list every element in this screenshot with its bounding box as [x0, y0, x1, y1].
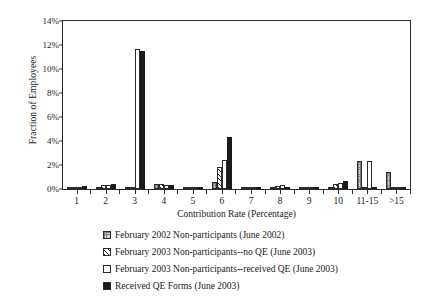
bar-group-7 [237, 21, 266, 189]
legend-label: February 2003 Non-participants--received… [115, 264, 338, 274]
y-tick-label: 6% [19, 112, 63, 122]
x-tick-mark [77, 190, 78, 194]
bar-group-15 [381, 21, 410, 189]
x-tick-mark [338, 190, 339, 194]
bar-groups [63, 21, 410, 189]
x-tick-mark [367, 190, 368, 194]
bar [169, 185, 174, 189]
solid-black-swatch [103, 282, 111, 290]
bar-group-4 [150, 21, 179, 189]
x-tick-label: 7 [236, 196, 265, 206]
x-boundary-tick [410, 190, 411, 194]
x-boundary-tick [235, 190, 236, 194]
bar-group-3 [121, 21, 150, 189]
y-tick-label: 14% [19, 16, 63, 26]
bar [343, 181, 348, 189]
x-tick-label: 9 [295, 196, 324, 206]
x-boundary-tick [206, 190, 207, 194]
x-tick-label: 5 [178, 196, 207, 206]
x-boundary-tick [294, 190, 295, 194]
x-tick-mark [193, 190, 194, 194]
bar [198, 187, 203, 189]
bar [314, 187, 319, 189]
x-tick-label: 6 [207, 196, 236, 206]
bar-group-1 [63, 21, 92, 189]
legend-item: Received QE Forms (June 2003) [103, 277, 433, 294]
legend-label: Received QE Forms (June 2003) [115, 281, 240, 291]
x-tick-mark [396, 190, 397, 194]
legend-item: February 2003 Non-participants--received… [103, 260, 433, 277]
y-tick-label: 4% [19, 136, 63, 146]
x-boundary-tick [148, 190, 149, 194]
x-tick-label: 3 [120, 196, 149, 206]
x-tick-mark [135, 190, 136, 194]
chart-legend: February 2002 Non-participants (June 200… [103, 226, 433, 294]
x-tick-mark [106, 190, 107, 194]
x-boundary-tick [381, 190, 382, 194]
bar [367, 161, 372, 189]
x-tick-label: 1 [62, 196, 91, 206]
x-tick-mark [280, 190, 281, 194]
bar-group-6 [208, 21, 237, 189]
x-boundary-tick [265, 190, 266, 194]
chart-figure: Fraction of Employees 0%2%4%6%8%10%12%14… [0, 0, 435, 306]
x-tick-mark [222, 190, 223, 194]
bar [140, 51, 145, 189]
bar-group-5 [179, 21, 208, 189]
bar-group-2 [92, 21, 121, 189]
x-boundary-tick [119, 190, 120, 194]
bar [111, 184, 116, 189]
y-tick-label: 0% [19, 184, 63, 194]
grid-stipple-swatch [103, 231, 111, 239]
x-tick-label: 4 [149, 196, 178, 206]
y-tick-label: 12% [19, 40, 63, 50]
x-axis-title: Contribution Rate (Percentage) [62, 209, 411, 219]
bar [401, 187, 406, 189]
hollow-white-swatch [103, 265, 111, 273]
legend-item: February 2002 Non-participants (June 200… [103, 226, 433, 243]
x-tick-label: >15 [382, 196, 411, 206]
x-tick-label: 11-15 [353, 196, 382, 206]
bar-group-8 [265, 21, 294, 189]
y-tick-label: 2% [19, 160, 63, 170]
x-tick-label: 8 [266, 196, 295, 206]
x-tick-mark [309, 190, 310, 194]
legend-label: February 2002 Non-participants (June 200… [115, 230, 284, 240]
bar [357, 161, 362, 189]
bar-group-1115 [352, 21, 381, 189]
x-boundary-tick [352, 190, 353, 194]
x-tick-label: 2 [91, 196, 120, 206]
x-tick-mark [251, 190, 252, 194]
bar [285, 187, 290, 189]
bar [372, 187, 377, 189]
bar-group-10 [323, 21, 352, 189]
y-tick-label: 10% [19, 64, 63, 74]
bar [256, 187, 261, 189]
legend-label: February 2003 Non-participants--no QE (J… [115, 247, 315, 257]
plot-area: 0%2%4%6%8%10%12%14% [62, 20, 411, 190]
x-boundary-tick [177, 190, 178, 194]
bar [82, 186, 87, 189]
x-boundary-tick [323, 190, 324, 194]
x-boundary-tick [90, 190, 91, 194]
x-tick-label: 10 [324, 196, 353, 206]
diagonal-hatch-swatch [103, 248, 111, 256]
legend-item: February 2003 Non-participants--no QE (J… [103, 243, 433, 260]
bar-group-9 [294, 21, 323, 189]
y-tick-label: 8% [19, 88, 63, 98]
x-tick-mark [164, 190, 165, 194]
bar [227, 137, 232, 189]
